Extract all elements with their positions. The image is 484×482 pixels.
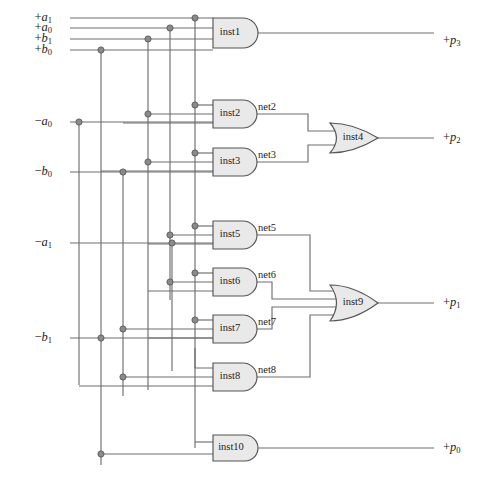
junction-inst5-in2 xyxy=(167,232,173,238)
gate-inst9[interactable]: inst9 xyxy=(330,285,378,321)
logic-schematic: inst1inst2inst3inst4inst5inst6inst7inst8… xyxy=(0,0,484,482)
gate-label-inst3: inst3 xyxy=(220,155,240,166)
junction-inst5-in1 xyxy=(192,223,198,229)
gate-label-inst7: inst7 xyxy=(220,322,240,333)
net-label-net3: net3 xyxy=(258,149,276,160)
junction-inst7-in2 xyxy=(120,326,126,332)
net-label-net5: net5 xyxy=(258,222,276,233)
junction-nb0-bus xyxy=(120,169,126,175)
junction-nb1-bus xyxy=(98,335,104,341)
gate-inst5[interactable]: inst5 xyxy=(213,221,257,249)
junction-pa1-bus xyxy=(192,15,198,21)
junction-inst6-in2 xyxy=(167,279,173,285)
output-port-label-out_p3: +p3 xyxy=(443,33,461,48)
gate-inst2[interactable]: inst2 xyxy=(213,100,257,128)
input-port-label-in_nb0: −b0 xyxy=(34,164,52,179)
junction-na1-bus xyxy=(169,240,175,246)
output-port-label-out_p0: +p0 xyxy=(443,440,461,455)
junction-na0-bus xyxy=(76,119,82,125)
gate-label-inst5: inst5 xyxy=(220,228,240,239)
junction-inst3-in1 xyxy=(192,150,198,156)
net-label-net6: net6 xyxy=(258,269,276,280)
junction-inst2-in1 xyxy=(192,102,198,108)
input-port-label-in_nb1: −b1 xyxy=(34,330,52,345)
gate-inst4[interactable]: inst4 xyxy=(330,123,378,153)
schematic-canvas: inst1inst2inst3inst4inst5inst6inst7inst8… xyxy=(0,0,484,482)
output-port-label-out_p2: +p2 xyxy=(443,130,461,145)
junction-pa0-bus xyxy=(167,25,173,31)
gate-label-inst10: inst10 xyxy=(218,441,244,452)
wire-net2-to-inst4 xyxy=(252,114,336,131)
input-port-label-in_na1: −a1 xyxy=(34,235,52,250)
wire-inst8-in1 xyxy=(195,348,213,368)
junction-layer xyxy=(76,15,198,457)
junction-pb1-bus xyxy=(145,36,151,42)
net-label-net7: net7 xyxy=(258,316,276,327)
gate-label-inst4: inst4 xyxy=(343,131,364,142)
gate-label-inst2: inst2 xyxy=(220,107,240,118)
junction-inst6-in1 xyxy=(192,270,198,276)
input-port-label-in_na0: −a0 xyxy=(34,114,52,129)
gate-inst1[interactable]: inst1 xyxy=(213,18,258,48)
output-port-label-out_p1: +p1 xyxy=(443,295,461,310)
gate-label-inst1: inst1 xyxy=(220,26,240,37)
junction-pb0-bus xyxy=(98,47,104,53)
junction-inst7-in1 xyxy=(192,317,198,323)
junction-inst10-in2 xyxy=(98,451,104,457)
gate-label-inst8: inst8 xyxy=(220,370,240,381)
net-label-net8: net8 xyxy=(258,364,276,375)
net-label-net2: net2 xyxy=(258,101,276,112)
gate-label-inst9: inst9 xyxy=(343,296,363,307)
gate-inst7[interactable]: inst7 xyxy=(213,315,257,343)
junction-inst8-in2 xyxy=(120,374,126,380)
junction-inst3-in2 xyxy=(145,159,151,165)
gate-layer: inst1inst2inst3inst4inst5inst6inst7inst8… xyxy=(213,18,378,461)
gate-inst8[interactable]: inst8 xyxy=(213,363,257,391)
gate-inst3[interactable]: inst3 xyxy=(213,148,257,176)
gate-label-inst6: inst6 xyxy=(220,275,240,286)
gate-inst10[interactable]: inst10 xyxy=(213,435,258,461)
junction-inst2-in2 xyxy=(145,111,151,117)
wire-net5-to-inst9 xyxy=(252,235,338,291)
gate-inst6[interactable]: inst6 xyxy=(213,268,257,296)
